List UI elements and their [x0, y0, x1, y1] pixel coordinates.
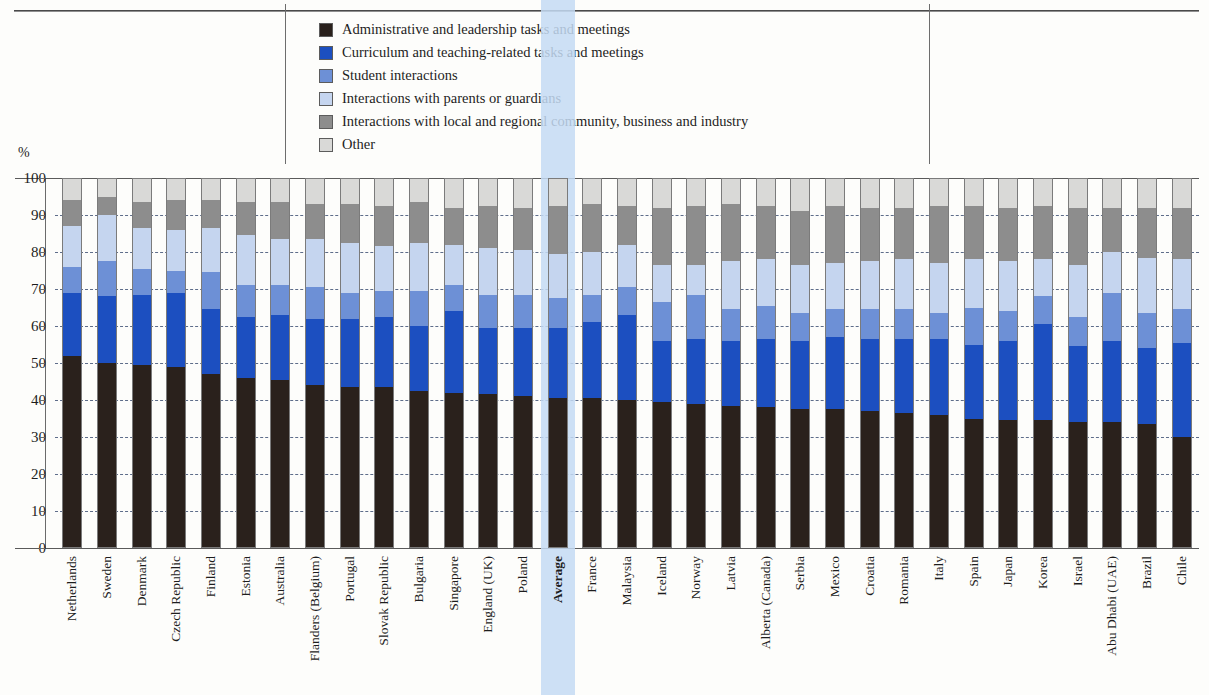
stacked-bar[interactable] — [617, 178, 637, 548]
bar-segment — [652, 341, 672, 402]
stacked-bar[interactable] — [998, 178, 1018, 548]
legend-swatch-icon — [319, 115, 333, 129]
x-axis-label: Malaysia — [620, 556, 634, 606]
bar-segment — [790, 341, 810, 409]
bar-segment — [305, 319, 325, 386]
stacked-bar[interactable] — [894, 178, 914, 548]
bar-segment — [478, 295, 498, 328]
x-axis-label: Brazil — [1140, 556, 1154, 589]
plot-area: 1009080706050403020100 — [55, 178, 1199, 548]
x-axis-label: Singapore — [447, 556, 461, 611]
bar-segment — [97, 261, 117, 296]
x-axis-label: Japan — [1001, 556, 1015, 587]
stacked-bar[interactable] — [652, 178, 672, 548]
bar-segment — [894, 259, 914, 309]
bar-segment — [617, 287, 637, 315]
bar-segment — [166, 230, 186, 271]
bar-segment — [236, 178, 256, 202]
stacked-bar[interactable] — [1102, 178, 1122, 548]
bar-segment — [444, 245, 464, 286]
stacked-bar[interactable] — [409, 178, 429, 548]
bar-segment — [340, 293, 360, 319]
bar-segment — [270, 285, 290, 315]
stacked-bar[interactable] — [236, 178, 256, 548]
stacked-bar[interactable] — [513, 178, 533, 548]
stacked-bar[interactable] — [340, 178, 360, 548]
bar-segment — [1068, 178, 1088, 208]
stacked-bar[interactable] — [686, 178, 706, 548]
bar-segment — [1137, 258, 1157, 314]
bar-segment — [964, 308, 984, 345]
x-axis-label: Average — [551, 556, 565, 603]
bar-segment — [721, 341, 741, 406]
bar-segment — [964, 345, 984, 419]
stacked-bar[interactable] — [964, 178, 984, 548]
stacked-bar[interactable] — [444, 178, 464, 548]
stacked-bar[interactable] — [1033, 178, 1053, 548]
legend-swatch-icon — [319, 138, 333, 152]
bar-segment — [444, 311, 464, 392]
bar-segment — [409, 178, 429, 202]
bar-segment — [582, 295, 602, 323]
bar-segment — [582, 398, 602, 548]
y-axis-tick-mark — [39, 548, 45, 549]
bar-segment — [548, 398, 568, 548]
bar-segment — [513, 396, 533, 548]
stacked-bar[interactable] — [305, 178, 325, 548]
stacked-bar[interactable] — [201, 178, 221, 548]
bar-segment — [374, 387, 394, 548]
bar-segment — [62, 356, 82, 548]
stacked-bar[interactable] — [860, 178, 880, 548]
bar-segment — [686, 295, 706, 339]
stacked-bar[interactable] — [374, 178, 394, 548]
bar-segment — [478, 328, 498, 395]
bar-segment — [1102, 252, 1122, 293]
stacked-bar[interactable] — [166, 178, 186, 548]
x-axis-label: Korea — [1036, 556, 1050, 589]
bar-segment — [756, 407, 776, 548]
chart-page: Administrative and leadership tasks and … — [0, 0, 1209, 695]
bar-segment — [1068, 208, 1088, 265]
bar-segment — [721, 261, 741, 309]
bar-segment — [478, 248, 498, 294]
bar-segment — [444, 285, 464, 311]
y-axis-unit-label: % — [18, 145, 30, 161]
bar-segment — [1068, 346, 1088, 422]
stacked-bar[interactable] — [97, 178, 117, 548]
stacked-bar[interactable] — [1137, 178, 1157, 548]
bar-segment — [374, 317, 394, 387]
stacked-bar[interactable] — [825, 178, 845, 548]
bar-segment — [929, 313, 949, 339]
stacked-bar[interactable] — [270, 178, 290, 548]
stacked-bar[interactable] — [582, 178, 602, 548]
stacked-bar[interactable] — [790, 178, 810, 548]
bar-segment — [166, 367, 186, 548]
bar-segment — [270, 315, 290, 380]
stacked-bar[interactable] — [721, 178, 741, 548]
y-axis-tick-mark — [39, 326, 45, 327]
bar-segment — [998, 420, 1018, 548]
stacked-bar[interactable] — [756, 178, 776, 548]
bar-segment — [790, 313, 810, 341]
stacked-bar[interactable] — [478, 178, 498, 548]
bar-segment — [374, 206, 394, 247]
x-axis-label: Slovak Republic — [377, 556, 391, 646]
stacked-bar[interactable] — [1172, 178, 1192, 548]
stacked-bar[interactable] — [929, 178, 949, 548]
x-axis-label: Portugal — [343, 556, 357, 602]
stacked-bar[interactable] — [132, 178, 152, 548]
bar-segment — [270, 202, 290, 239]
stacked-bar[interactable] — [548, 178, 568, 548]
bar-segment — [756, 178, 776, 206]
bar-segment — [582, 204, 602, 252]
x-axis-label: Norway — [689, 556, 703, 600]
x-axis-label: Bulgaria — [412, 556, 426, 603]
bar-segment — [998, 341, 1018, 421]
bar-segment — [409, 291, 429, 326]
bar-segment — [513, 328, 533, 396]
stacked-bar[interactable] — [62, 178, 82, 548]
bar-segment — [860, 261, 880, 309]
plot-top-border — [15, 178, 1199, 179]
stacked-bar[interactable] — [1068, 178, 1088, 548]
bar-segment — [998, 261, 1018, 311]
